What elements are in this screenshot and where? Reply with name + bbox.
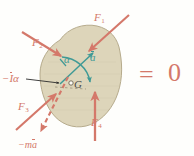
force-4-symbol: F — [91, 116, 98, 128]
force-1-symbol: F — [94, 11, 101, 23]
inertia-force-minus: − — [18, 139, 25, 150]
free-body-diagram-figure: F1 F2 F3 F4 α a −Iα −ma G = 0 — [0, 0, 194, 156]
force-2-subscript: 2 — [39, 42, 43, 50]
force-4-label: F4 — [91, 117, 102, 130]
center-of-mass-marker — [69, 81, 73, 85]
equals-symbol: = — [139, 60, 154, 89]
force-1-label: F1 — [94, 12, 105, 25]
a-bar-symbol: a — [90, 52, 96, 63]
inertia-force-a-symbol: a — [32, 140, 37, 150]
force-3-label: F3 — [18, 101, 29, 114]
zero-symbol: 0 — [168, 58, 181, 87]
zero-value: 0 — [168, 60, 181, 86]
acceleration-label: a — [90, 52, 96, 63]
force-2-symbol: F — [32, 36, 39, 48]
force-1-subscript: 1 — [101, 17, 105, 25]
force-2-label: F2 — [32, 37, 43, 50]
inertia-couple-label: −Iα — [2, 73, 19, 84]
inertia-force-label: −ma — [18, 140, 37, 150]
inertia-couple-I-symbol: I — [9, 73, 13, 84]
inertia-force-m-symbol: m — [25, 139, 32, 150]
force-3-subscript: 3 — [25, 106, 29, 114]
force-3-symbol: F — [18, 100, 25, 112]
inertia-couple-alpha-symbol: α — [13, 72, 19, 84]
angular-acceleration-label: α — [64, 54, 70, 65]
force-4-subscript: 4 — [98, 122, 102, 130]
equals-sign: = — [139, 62, 154, 88]
center-of-mass-label: G — [74, 79, 82, 90]
g-symbol: G — [74, 78, 82, 90]
alpha-symbol: α — [64, 53, 70, 65]
rigid-body-shape — [40, 25, 122, 127]
